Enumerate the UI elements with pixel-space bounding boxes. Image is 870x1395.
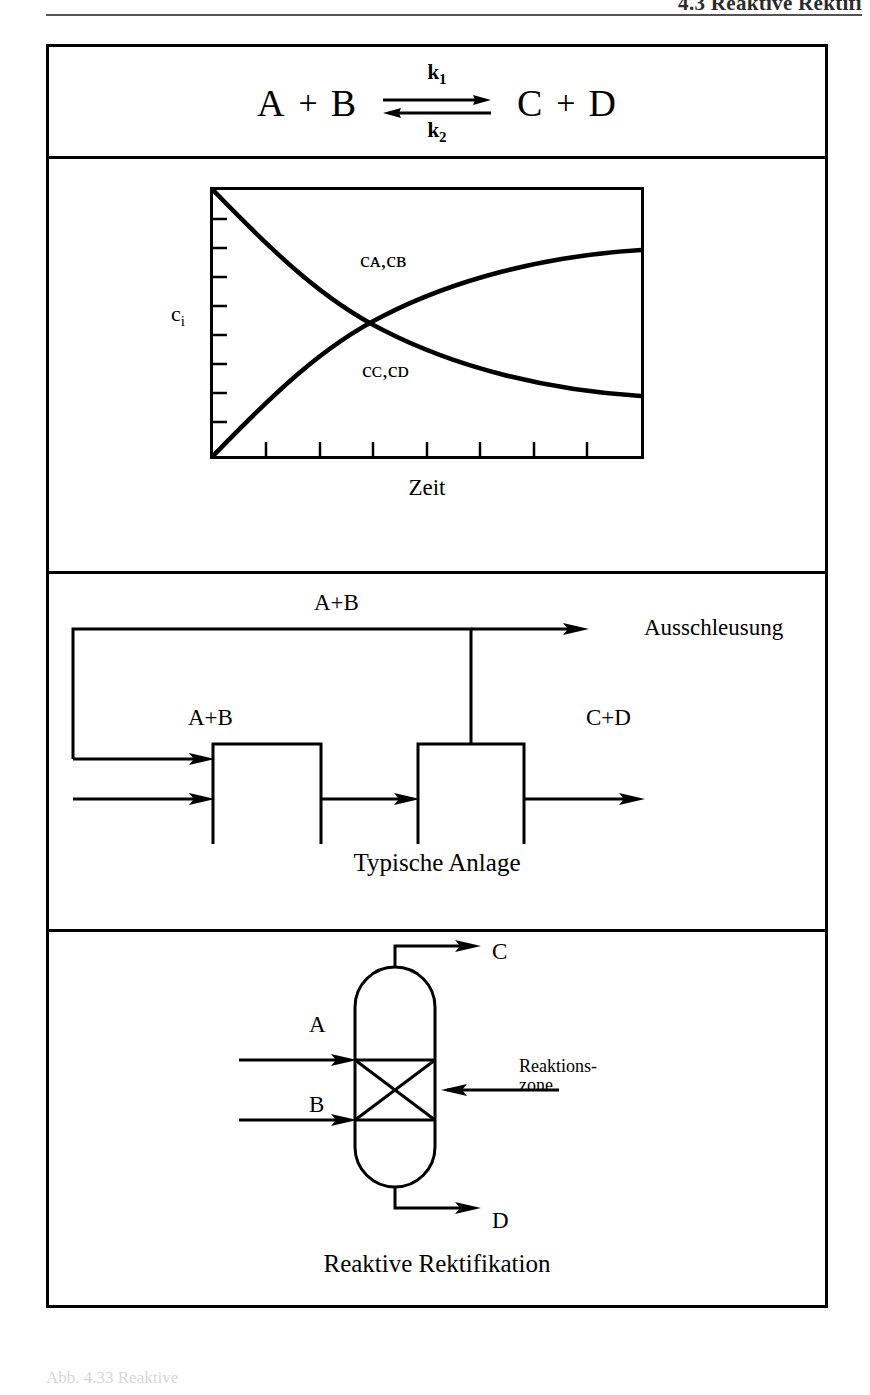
- chart-series-label-reactants: cᴀ,cʙ: [360, 247, 406, 273]
- reactant-a: A: [257, 84, 285, 122]
- figure-caption-stub: Abb. 4.33 Reaktive: [46, 1368, 178, 1388]
- plus-sign-left: +: [298, 86, 317, 120]
- rate-constant-k1-symbol: k: [427, 60, 439, 84]
- rate-constant-k2-symbol: k: [427, 118, 439, 142]
- product-d: D: [589, 84, 617, 122]
- rate-constant-k1-subscript: 1: [439, 71, 447, 87]
- column-bottom-product-label: D: [492, 1208, 509, 1234]
- rate-constant-k1: k1: [427, 60, 446, 88]
- running-head-rule: [46, 14, 862, 16]
- chart-y-axis-label-symbol: c: [171, 301, 181, 326]
- panel-reactive-distillation: C A B D Reaktions- zone Reaktive Rektifi…: [49, 932, 825, 1305]
- separator-box: [418, 744, 524, 844]
- column-feed-a-label: A: [309, 1012, 326, 1038]
- curve-reactants: [213, 190, 641, 396]
- panel-typical-plant: A+B Ausschleusung A+B C+D Typische Anlag…: [49, 574, 825, 932]
- reactive-distillation-diagram: C A B D Reaktions- zone Reaktive Rektifi…: [49, 932, 825, 1305]
- plant-recycle-label: A+B: [314, 590, 359, 616]
- reactant-b: B: [331, 84, 357, 122]
- plus-sign-right: +: [556, 86, 575, 120]
- recycle-line: [73, 629, 471, 759]
- reaction-equation: A + B k1 k2 C + D: [49, 47, 825, 159]
- top-product-line: [395, 946, 467, 967]
- column-feed-b-label: B: [309, 1092, 324, 1118]
- chart-plot-box: [210, 187, 644, 459]
- plant-flowsheet: A+B Ausschleusung A+B C+D Typische Anlag…: [49, 574, 825, 932]
- bottom-product-line: [395, 1187, 467, 1208]
- panel-reaction-equation: A + B k1 k2 C + D: [49, 47, 825, 159]
- chart-y-ticks: [213, 219, 227, 422]
- reactor-box: [213, 744, 321, 844]
- plant-feed-label: A+B: [188, 705, 233, 731]
- column-graphic: [49, 932, 825, 1242]
- reaction-zone-label: Reaktions- zone: [519, 1057, 597, 1095]
- chart-x-axis-label: Zeit: [210, 475, 644, 501]
- chart-curves: [213, 190, 641, 456]
- panel-concentration-chart: ci cᴀ,cʙ cᴄ,cᴅ Zeit: [49, 159, 825, 574]
- product-c: C: [517, 84, 543, 122]
- running-head: 4.3 Reaktive Rektifi: [46, 0, 862, 22]
- plant-caption: Typische Anlage: [49, 849, 825, 877]
- chart-y-axis-label: ci: [171, 301, 185, 330]
- chart-series-label-products: cᴄ,cᴅ: [362, 357, 409, 383]
- reaction-zone-label-line2: zone: [519, 1076, 597, 1095]
- rate-constant-k2-subscript: 2: [439, 129, 447, 145]
- concentration-chart: ci cᴀ,cʙ cᴄ,cᴅ Zeit: [49, 159, 825, 574]
- column-shell: [355, 967, 435, 1187]
- rate-constant-k2: k2: [427, 118, 446, 146]
- column-caption: Reaktive Rektifikation: [49, 1250, 825, 1278]
- column-top-product-label: C: [492, 939, 507, 965]
- plant-purge-label: Ausschleusung: [644, 615, 783, 641]
- arrow-right-icon: [383, 94, 491, 106]
- figure-frame: A + B k1 k2 C + D: [46, 44, 828, 1308]
- plant-product-label: C+D: [586, 705, 631, 731]
- equilibrium-arrows: k1 k2: [383, 60, 491, 146]
- chart-x-ticks: [266, 442, 587, 456]
- reaction-zone-label-line1: Reaktions-: [519, 1057, 597, 1076]
- chart-y-axis-label-subscript: i: [181, 313, 185, 329]
- curve-products: [213, 250, 641, 456]
